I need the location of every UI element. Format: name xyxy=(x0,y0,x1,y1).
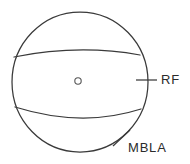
circle-outline xyxy=(12,12,148,152)
figure-canvas: RF MBLA xyxy=(0,0,190,164)
mbla-label: MBLA xyxy=(128,140,167,155)
lower-band-boundary xyxy=(15,107,141,118)
diagram-svg: RF MBLA xyxy=(0,0,190,164)
rf-label: RF xyxy=(161,72,180,87)
upper-band-boundary xyxy=(14,50,140,57)
center-point-marker xyxy=(75,78,81,84)
